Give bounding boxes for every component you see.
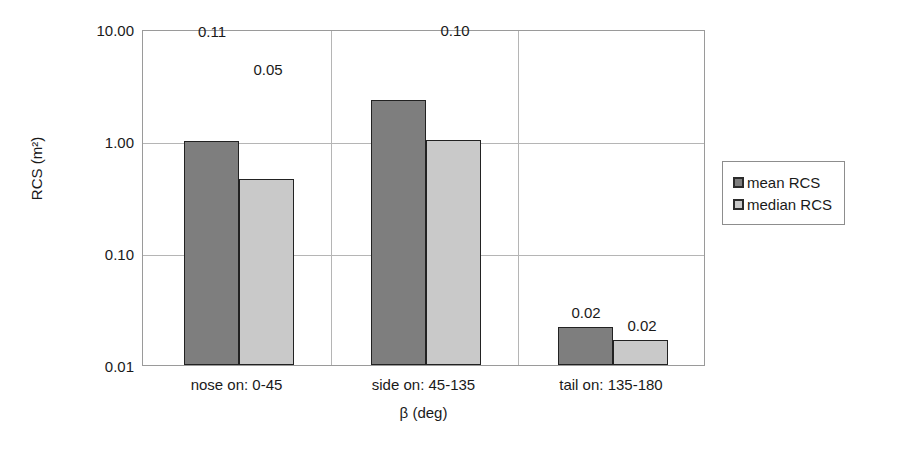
- x-axis-title: β (deg): [142, 404, 705, 421]
- y-axis-title: RCS (m²): [28, 89, 45, 249]
- category-separator-1: [331, 31, 332, 365]
- plot-area: 0.11 0.05 2.34 0.10 0.02 0.02: [142, 30, 705, 366]
- y-tick-1: 1.00: [54, 135, 134, 150]
- bar-label-median-nose-on: 0.05: [229, 62, 307, 77]
- legend-item-mean-rcs: mean RCS: [733, 171, 832, 193]
- x-tick-side-on: side on: 45-135: [330, 376, 517, 393]
- bar-mean-side-on: [371, 100, 426, 365]
- y-tick-0.10: 0.10: [54, 247, 134, 262]
- y-tick-10: 10.00: [54, 23, 134, 38]
- legend-label-median-rcs: median RCS: [747, 197, 832, 212]
- bar-median-side-on: [426, 140, 481, 365]
- legend-item-median-rcs: median RCS: [733, 193, 832, 215]
- rcs-bar-chart: RCS (m²) 10.00 1.00 0.10 0.01 0.11 0.05 …: [0, 0, 899, 452]
- category-separator-2: [518, 31, 519, 365]
- bar-median-nose-on: [239, 179, 294, 365]
- bar-label-mean-nose-on: 0.11: [173, 24, 251, 39]
- bar-median-tail-on: [613, 340, 668, 365]
- y-axis-tick-labels: 10.00 1.00 0.10 0.01: [50, 0, 134, 452]
- y-tick-0.01: 0.01: [54, 359, 134, 374]
- bar-label-median-side-on: 0.10: [416, 23, 494, 38]
- bar-mean-nose-on: [184, 141, 239, 365]
- legend-label-mean-rcs: mean RCS: [747, 175, 820, 190]
- legend-swatch-median-rcs: [733, 199, 744, 210]
- bar-label-median-tail-on: 0.02: [603, 318, 681, 333]
- x-tick-nose-on: nose on: 0-45: [143, 376, 330, 393]
- legend-swatch-mean-rcs: [733, 177, 744, 188]
- chart-legend: mean RCS median RCS: [722, 161, 845, 225]
- x-tick-tail-on: tail on: 135-180: [517, 376, 705, 393]
